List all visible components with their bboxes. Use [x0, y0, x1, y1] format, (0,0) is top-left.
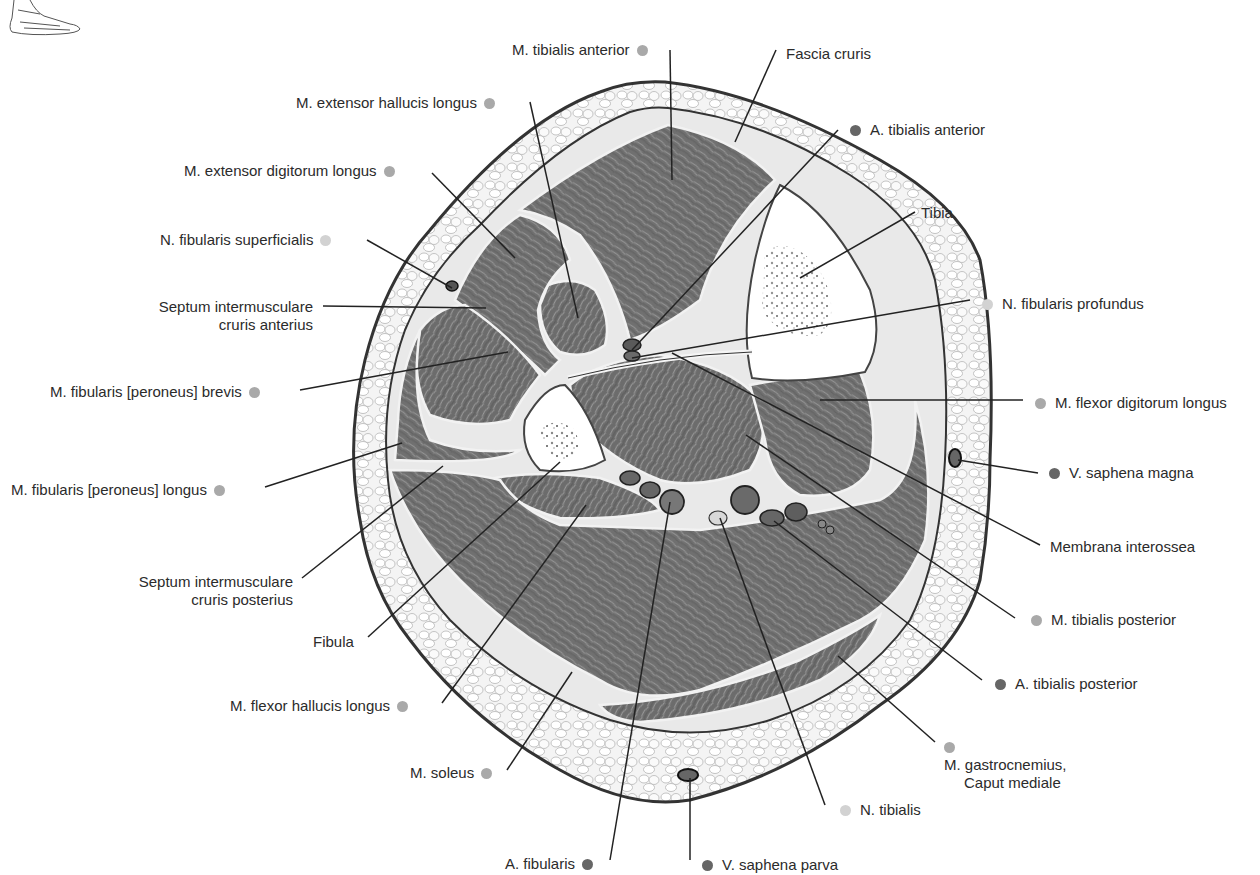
- label-v-saphena-parva: V. saphena parva: [702, 856, 838, 874]
- v-saphena-magna-vessel: [949, 449, 961, 467]
- label-a-fibularis: A. fibularis: [505, 855, 593, 873]
- muscle-dot-icon: [944, 742, 955, 753]
- label-septum-intermusculare-anterius: Septum intermusculare cruris anterius: [135, 298, 313, 334]
- label-extensor-digitorum-longus: M. extensor digitorum longus: [184, 162, 395, 180]
- muscle-dot-icon: [384, 166, 395, 177]
- v-saphena-parva-vessel: [678, 769, 698, 781]
- label-tibialis-posterior: M. tibialis posterior: [1031, 611, 1176, 629]
- label-n-fibularis-profundus: N. fibularis profundus: [982, 295, 1144, 313]
- muscle-dot-icon: [214, 485, 225, 496]
- label-tibialis-anterior: M. tibialis anterior: [512, 41, 648, 59]
- label-n-fibularis-superficialis: N. fibularis superficialis: [160, 231, 331, 249]
- muscle-dot-icon: [397, 701, 408, 712]
- muscle-dot-icon: [481, 768, 492, 779]
- nerve-dot-icon: [840, 805, 851, 816]
- label-n-tibialis: N. tibialis: [840, 801, 921, 819]
- muscle-dot-icon: [1035, 398, 1046, 409]
- vessel-dot-icon: [995, 679, 1006, 690]
- label-fibula: Fibula: [313, 633, 354, 651]
- muscle-dot-icon: [249, 387, 260, 398]
- label-flexor-digitorum-longus: M. flexor digitorum longus: [1035, 394, 1227, 412]
- label-a-tibialis-posterior: A. tibialis posterior: [995, 675, 1138, 693]
- vessel-dot-icon: [582, 859, 593, 870]
- vessel-dot-icon: [850, 125, 861, 136]
- label-a-tibialis-anterior: A. tibialis anterior: [850, 121, 985, 139]
- leg-cross-section-diagram: [0, 0, 1260, 875]
- foot-lateral-view-icon: [10, 0, 80, 35]
- vessel-dot-icon: [1049, 468, 1060, 479]
- vessel-dot-icon: [702, 860, 713, 871]
- label-fibularis-brevis: M. fibularis [peroneus] brevis: [50, 383, 260, 401]
- muscle-dot-icon: [637, 45, 648, 56]
- label-soleus: M. soleus: [410, 764, 492, 782]
- label-fascia-cruris: Fascia cruris: [786, 45, 871, 63]
- label-flexor-hallucis-longus: M. flexor hallucis longus: [230, 697, 408, 715]
- label-membrana-interossea: Membrana interossea: [1050, 538, 1195, 556]
- label-extensor-hallucis-longus: M. extensor hallucis longus: [296, 94, 495, 112]
- label-septum-intermusculare-posterius: Septum intermusculare cruris posterius: [110, 573, 293, 609]
- nerve-dot-icon: [320, 235, 331, 246]
- nerve-dot-icon: [982, 299, 993, 310]
- label-fibularis-longus: M. fibularis [peroneus] longus: [11, 481, 225, 499]
- label-gastrocnemius-caput-mediale: M. gastrocnemius, Caput mediale: [944, 738, 1067, 792]
- label-tibia: Tibia: [921, 204, 953, 222]
- muscle-dot-icon: [1031, 615, 1042, 626]
- label-v-saphena-magna: V. saphena magna: [1049, 464, 1194, 482]
- muscle-dot-icon: [484, 98, 495, 109]
